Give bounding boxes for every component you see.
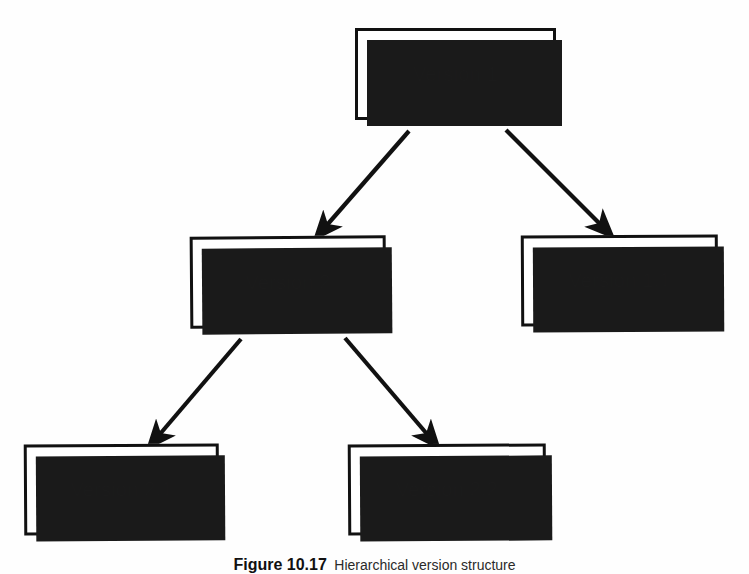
node-version-2-1: Version 2.1	[24, 443, 220, 535]
edge-v1-to-v11	[506, 130, 600, 224]
node-label: Version 1.1	[568, 269, 670, 293]
node-version-2: Version 2	[190, 235, 387, 329]
node-label: Version 1	[413, 63, 498, 86]
edge-v2-to-v22	[345, 338, 427, 434]
figure-caption-text: Hierarchical version structure	[334, 557, 515, 573]
node-version-1-1: Version 1.1	[521, 234, 718, 326]
figure-canvas: Version 1 Version 2 Version 1.1 Version …	[0, 0, 749, 574]
figure-caption-number: Figure 10.17	[233, 556, 326, 573]
node-version-2-2: Version 2.2	[348, 443, 547, 535]
node-label: Version 2.2	[396, 478, 498, 502]
node-version-1: Version 1	[355, 28, 556, 120]
node-label: Version 2.1	[70, 478, 172, 502]
node-label: Version 2	[245, 270, 330, 294]
edge-v2-to-v21	[160, 339, 241, 434]
edge-v1-to-v2	[327, 131, 409, 225]
figure-caption: Figure 10.17 Hierarchical version struct…	[0, 556, 749, 574]
